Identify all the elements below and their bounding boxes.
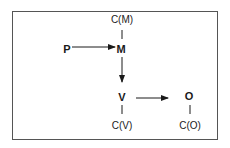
node-m: M [116,44,125,55]
node-v: V [118,92,125,103]
node-p: P [63,44,70,55]
node-c-v: C(V) [112,121,133,131]
node-c-o: C(O) [179,121,201,131]
node-o: O [185,91,194,102]
node-c-m: C(M) [111,15,133,25]
